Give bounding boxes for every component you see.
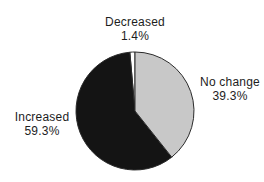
slice-value-text: 1.4%	[105, 29, 165, 43]
slice-value-text: 39.3%	[200, 89, 260, 103]
pie-chart-figure: Decreased 1.4% Increased 59.3% No change…	[0, 0, 264, 182]
slice-label-decreased: Decreased 1.4%	[105, 15, 165, 43]
slice-label-increased: Increased 59.3%	[15, 110, 70, 138]
slice-label-text: Decreased	[105, 15, 165, 29]
slice-label-text: Increased	[15, 110, 70, 124]
slice-label-text: No change	[200, 75, 260, 89]
slice-value-text: 59.3%	[15, 124, 70, 138]
slice-label-no-change: No change 39.3%	[200, 75, 260, 103]
